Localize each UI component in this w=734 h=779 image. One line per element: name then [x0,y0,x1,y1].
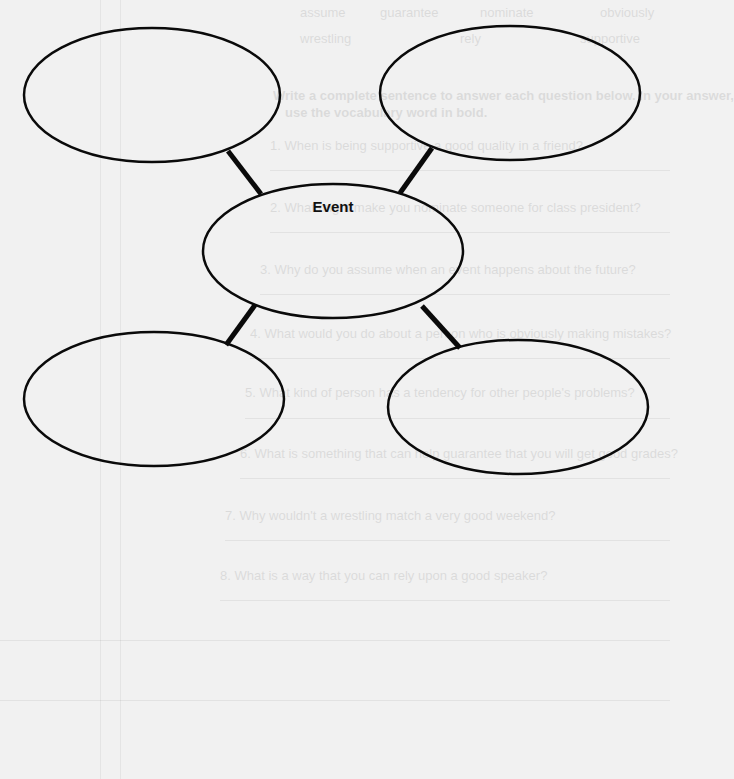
connector-bottom-left [226,305,255,345]
bubble-top-right-write-area[interactable] [400,46,620,140]
connector-top-left [228,151,261,194]
bubble-top-left-write-area[interactable] [44,48,260,142]
center-bubble-label: Event [283,198,383,215]
connector-top-right [400,148,432,193]
connector-bottom-right [422,306,460,348]
bubble-bottom-left-write-area[interactable] [44,352,264,446]
bubble-bottom-right-write-area[interactable] [408,360,628,454]
